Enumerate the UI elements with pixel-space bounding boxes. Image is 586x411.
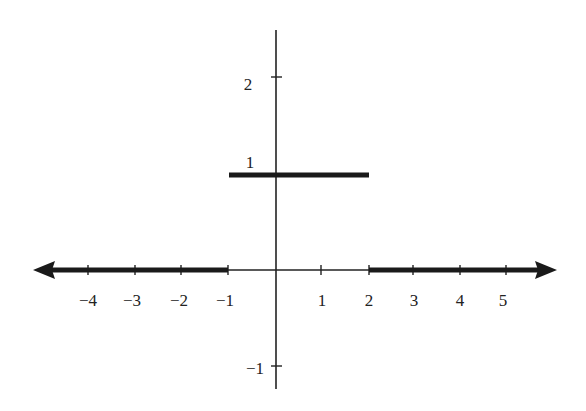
x-tick-label: 2 — [365, 291, 374, 310]
step-function-graph: −4 −3 −2 −1 1 2 3 4 5 2 1 −1 — [0, 0, 586, 411]
y-tick-label: 1 — [246, 153, 255, 172]
x-tick-label: −3 — [123, 291, 141, 310]
x-tick-label: 4 — [456, 291, 465, 310]
x-tick-label: −4 — [79, 291, 98, 310]
arrow-right-icon — [535, 261, 557, 279]
x-tick-label: −1 — [216, 291, 234, 310]
plot-area: −4 −3 −2 −1 1 2 3 4 5 2 1 −1 — [0, 0, 586, 411]
x-tick-label: 1 — [318, 291, 327, 310]
x-tick-label: 3 — [410, 291, 419, 310]
y-tick-label: 2 — [244, 75, 253, 94]
x-tick-label: 5 — [499, 291, 508, 310]
x-tick-label: −2 — [170, 291, 188, 310]
y-tick-label: −1 — [246, 359, 264, 378]
arrow-left-icon — [33, 261, 55, 279]
